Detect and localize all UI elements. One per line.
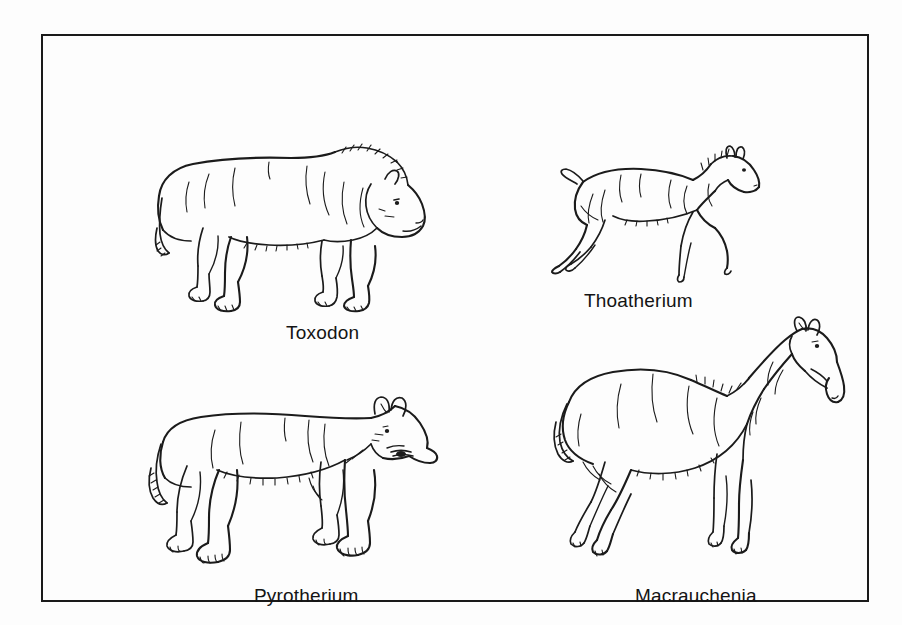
caption-pyrotherium: Pyrotherium — [254, 585, 359, 607]
illustration-plate: Toxodon — [0, 0, 902, 625]
caption-macrauchenia: Macrauchenia — [635, 585, 757, 607]
figure-pyrotherium — [139, 374, 449, 579]
caption-toxodon: Toxodon — [286, 322, 359, 344]
figure-toxodon — [139, 124, 439, 324]
figure-macrauchenia — [521, 314, 871, 579]
plate-border-frame: Toxodon — [41, 34, 869, 602]
caption-thoatherium: Thoatherium — [584, 290, 693, 312]
thoatherium-drawing — [541, 144, 781, 289]
figure-thoatherium — [541, 144, 781, 289]
pyrotherium-drawing — [139, 374, 449, 579]
toxodon-drawing — [139, 124, 439, 324]
macrauchenia-drawing — [521, 314, 871, 579]
